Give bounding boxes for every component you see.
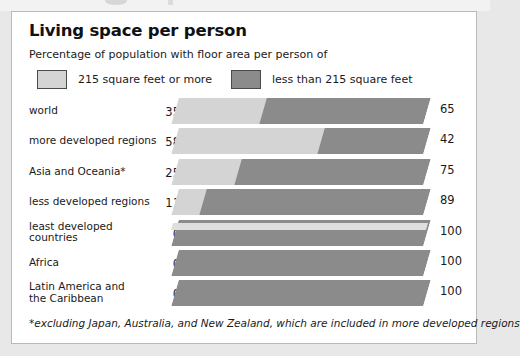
row-value-right: 100 [440, 284, 462, 298]
row-label: least developedcountries [29, 221, 163, 244]
legend-swatch-light [37, 70, 67, 89]
bar-segment-dark [234, 159, 430, 185]
bar-segment-dark [171, 250, 430, 276]
page-title: Living space per person [29, 21, 247, 40]
row-label: world [29, 105, 163, 117]
legend-label-dark: less than 215 square feet [272, 73, 412, 86]
stacked-bar [175, 280, 427, 306]
chart-row: Latin America andthe Caribbean0100 [12, 278, 476, 308]
row-value-right: 89 [440, 193, 455, 207]
legend-swatch-dark [231, 70, 261, 89]
row-value-right: 65 [440, 102, 455, 116]
row-label: Latin America andthe Caribbean [29, 281, 163, 304]
row-value-right: 100 [440, 224, 462, 238]
legend-label-light: 215 square feet or more [78, 73, 212, 86]
stacked-bar [175, 159, 427, 185]
row-label: more developed regions [29, 135, 163, 147]
chart-card: Living space per person Percentage of po… [11, 11, 477, 344]
top-cropped-artifact [0, 0, 490, 11]
row-value-right: 42 [440, 132, 455, 146]
stacked-bar [175, 98, 427, 124]
bar-segment-dark [171, 280, 430, 306]
bar-segment-light [171, 159, 241, 185]
chart-legend: 215 square feet or more less than 215 sq… [29, 70, 459, 96]
cropped-text-fragment [168, 0, 173, 5]
chart-row: world3565 [12, 96, 476, 126]
row-value-right: 75 [440, 163, 455, 177]
chart-row: less developed regions1189 [12, 187, 476, 217]
bar-segment-dark [259, 98, 430, 124]
chart-base-platform [172, 223, 427, 230]
row-label: Asia and Oceania* [29, 166, 163, 178]
cropped-logo-fragment [105, 0, 127, 5]
bar-segment-light [171, 128, 325, 154]
stacked-bar [175, 250, 427, 276]
chart-row: Asia and Oceania*2575 [12, 157, 476, 187]
row-value-right: 100 [440, 254, 462, 268]
row-label: Africa [29, 257, 163, 269]
stacked-bar [175, 128, 427, 154]
chart-plot-area: world3565more developed regions5842Asia … [12, 96, 476, 310]
chart-footnote: *excluding Japan, Australia, and New Zea… [29, 317, 520, 329]
bar-segment-dark [317, 128, 430, 154]
bar-segment-dark [199, 189, 431, 215]
legend-item-light: 215 square feet or more [37, 70, 212, 89]
chart-row: Africa0100 [12, 248, 476, 278]
chart-row: more developed regions5842 [12, 126, 476, 156]
legend-item-dark: less than 215 square feet [231, 70, 412, 89]
bar-segment-light [171, 98, 267, 124]
stacked-bar [175, 189, 427, 215]
row-label: less developed regions [29, 196, 163, 208]
chart-subtitle: Percentage of population with floor area… [29, 48, 327, 61]
